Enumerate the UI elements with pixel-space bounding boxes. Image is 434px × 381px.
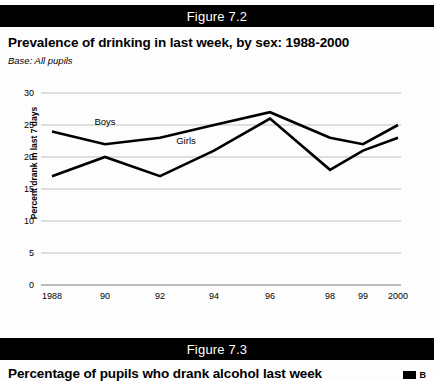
x-tick-1988: 1988: [42, 291, 62, 301]
line-chart-svg: 051015202530 19889092949698992000 BoysGi…: [0, 70, 434, 310]
legend-swatch-icon: [403, 371, 416, 379]
x-tick-label-group: 19889092949698992000: [42, 291, 408, 301]
series-label-girls: Girls: [176, 135, 196, 146]
figure-73-label: Figure 7.3: [187, 342, 248, 357]
chart-plot-area: Percent drank in last 7 days 05101520253…: [0, 70, 434, 310]
series-inline-label-group: BoysGirls: [94, 116, 196, 146]
x-tick-94: 94: [209, 291, 219, 301]
figure-72-header-bar: Figure 7.2: [0, 5, 434, 27]
figure-73-header-bar: Figure 7.3: [0, 338, 434, 360]
y-tick-0: 0: [29, 280, 34, 290]
series-line-girls: [52, 119, 398, 177]
x-tick-96: 96: [265, 291, 275, 301]
figure-73-title: Percentage of pupils who drank alcohol l…: [8, 366, 322, 381]
figure-72-title: Prevalence of drinking in last week, by …: [8, 35, 349, 50]
x-tick-98: 98: [325, 291, 335, 301]
y-axis-title: Percent drank in last 7 days: [29, 83, 39, 243]
figure-73-legend: B: [403, 370, 427, 380]
x-tick-2000: 2000: [388, 291, 408, 301]
legend-label: B: [420, 370, 427, 380]
y-tick-5: 5: [29, 248, 34, 258]
figure-72-base-note: Base: All pupils: [8, 55, 73, 66]
series-label-boys: Boys: [94, 116, 115, 127]
x-tick-90: 90: [100, 291, 110, 301]
x-tick-99: 99: [358, 291, 368, 301]
figure-72-label: Figure 7.2: [187, 9, 248, 24]
page-canvas: Figure 7.2 Prevalence of drinking in las…: [0, 0, 434, 381]
x-tick-92: 92: [155, 291, 165, 301]
